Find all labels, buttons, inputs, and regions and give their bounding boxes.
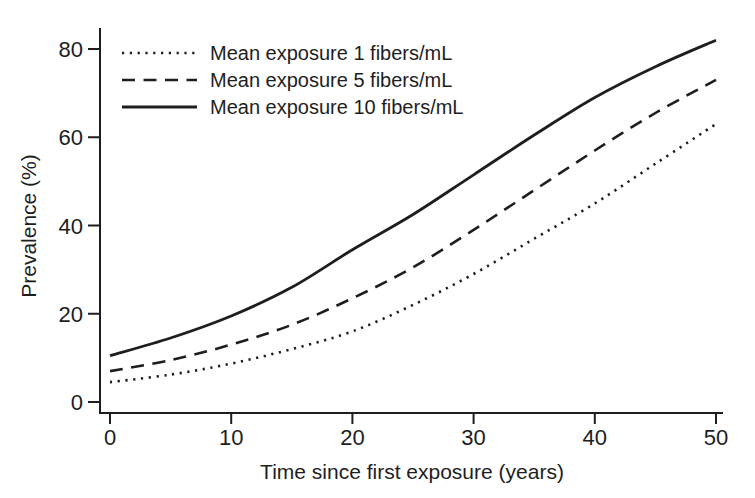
prevalence-vs-time-chart: 02040608001020304050 Mean exposure 1 fib…	[0, 0, 755, 498]
y-tick-label: 80	[59, 37, 83, 62]
x-tick-label: 40	[583, 425, 607, 450]
curve-lines	[110, 40, 716, 382]
y-tick-label: 40	[59, 214, 83, 239]
x-tick-label: 50	[704, 425, 728, 450]
legend-label-3: Mean exposure 10 fibers/mL	[210, 96, 463, 118]
legend-item-2: Mean exposure 5 fibers/mL	[122, 69, 452, 91]
legend-label-2: Mean exposure 5 fibers/mL	[210, 69, 452, 91]
series-curve-dotted	[110, 124, 716, 382]
axes: 02040608001020304050	[59, 28, 729, 450]
x-tick-label: 0	[104, 425, 116, 450]
y-tick-label: 20	[59, 302, 83, 327]
x-tick-label: 30	[461, 425, 485, 450]
x-tick-label: 20	[340, 425, 364, 450]
y-tick-label: 0	[71, 390, 83, 415]
legend-label-1: Mean exposure 1 fibers/mL	[210, 42, 452, 64]
legend-item-3: Mean exposure 10 fibers/mL	[122, 96, 463, 118]
legend-item-1: Mean exposure 1 fibers/mL	[122, 42, 452, 64]
x-tick-label: 10	[219, 425, 243, 450]
y-tick-label: 60	[59, 125, 83, 150]
legend: Mean exposure 1 fibers/mL Mean exposure …	[122, 42, 463, 118]
chart-canvas: 02040608001020304050 Mean exposure 1 fib…	[0, 0, 755, 498]
y-axis-label: Prevalence (%)	[17, 154, 40, 298]
x-axis-label: Time since first exposure (years)	[260, 460, 564, 483]
